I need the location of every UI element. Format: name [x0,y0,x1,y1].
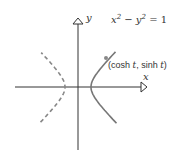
y-axis-label: y [86,13,92,23]
point-label: (cosh t, sinh t) [108,61,167,70]
y-axis-arrow-icon [73,18,83,24]
x-axis-arrow-icon [141,82,147,92]
x-axis-label: x [143,72,149,82]
equation-label: x2 − y2 = 1 [111,14,167,25]
